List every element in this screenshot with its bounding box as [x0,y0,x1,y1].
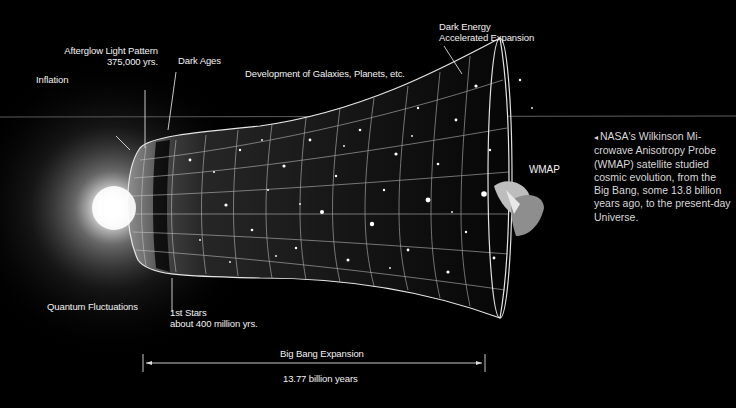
dark-energy-subtitle: Accelerated Expansion [439,32,534,43]
cosmic-timeline-diagram: Afterglow Light Pattern 375,000 yrs. Inf… [0,0,736,408]
caption-text-block: ◂NASA's Wilkinson Mi-crowave Anisotropy … [594,130,734,224]
dark-ages-label: Dark Ages [178,55,221,66]
duration-label: 13.77 billion years [283,373,358,384]
dark-energy-title: Dark Energy [439,21,534,32]
afterglow-age: 375,000 yrs. [30,56,158,67]
quantum-fluctuations-label: Quantum Fluctuations [47,301,138,312]
first-stars-title: 1st Stars [170,307,258,318]
dark-energy-label: Dark Energy Accelerated Expansion [439,21,534,43]
first-stars-age: about 400 million yrs. [170,318,258,329]
afterglow-label: Afterglow Light Pattern 375,000 yrs. [30,45,158,67]
expansion-label: Big Bang Expansion [280,348,364,359]
first-stars-label: 1st Stars about 400 million yrs. [170,307,258,329]
caption-text: NASA's Wilkinson Mi-crowave Anisotropy P… [594,130,731,223]
afterglow-title: Afterglow Light Pattern [30,45,158,56]
pointer-left-icon: ◂ [594,133,598,142]
big-bang-core [92,186,136,230]
wmap-label: WMAP [529,164,560,175]
galaxies-label: Development of Galaxies, Planets, etc. [245,68,405,79]
inflation-label: Inflation [36,74,68,85]
